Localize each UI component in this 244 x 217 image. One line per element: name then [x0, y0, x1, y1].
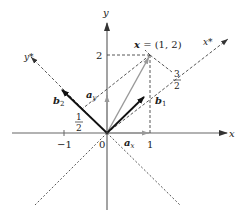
- b2-label: b2: [53, 95, 64, 108]
- fraction-one-half-den: 2: [76, 123, 82, 133]
- guide-parallel-ystar: [145, 50, 150, 55]
- xstar-axis: [107, 39, 228, 133]
- fraction-three-halves-num: 3: [174, 69, 180, 79]
- b1-label: b1: [155, 95, 166, 108]
- point-equals: =: [140, 39, 155, 50]
- fraction-three-halves-den: 2: [174, 81, 180, 91]
- point-label: x = (1, 2): [133, 39, 182, 50]
- ax-label: ax: [124, 137, 134, 150]
- tick-x-pos-label: 1: [147, 139, 153, 150]
- vector-b1: [107, 97, 144, 133]
- xstar-axis-label: x*: [203, 37, 213, 47]
- ystar-axis-label: y*: [23, 52, 34, 62]
- y-axis-label: y: [102, 7, 109, 18]
- dual-basis-diagram: y x x* y* 0 1 −1 2 x = (1, 2) 3 2 1 2 b1…: [0, 0, 244, 217]
- ystar-axis-lower: [107, 133, 180, 205]
- tick-x-neg-label: −1: [57, 139, 72, 150]
- point-coords: (1, 2): [155, 39, 182, 50]
- tick-y-label: 2: [96, 50, 102, 61]
- fraction-one-half-num: 1: [76, 112, 82, 122]
- vector-x: [107, 57, 149, 133]
- x-axis-label: x: [229, 128, 235, 139]
- origin-point: [106, 132, 109, 135]
- ay-label: ay: [86, 89, 97, 102]
- origin-label: 0: [99, 139, 105, 150]
- guide-to-xstar: [150, 55, 172, 72]
- vector-b2: [62, 90, 107, 133]
